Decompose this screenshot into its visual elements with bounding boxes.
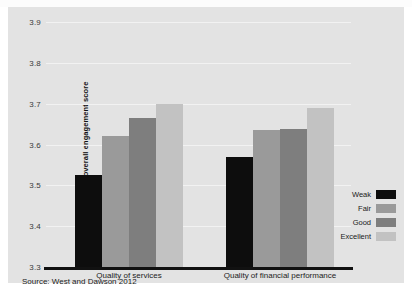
- x-axis-line: [44, 267, 353, 270]
- x-axis-category-label: Quality of financial performance: [224, 271, 337, 280]
- legend-label: Good: [353, 218, 371, 227]
- legend-item-good[interactable]: Good: [341, 218, 396, 227]
- y-axis-tick-label: 3.5: [29, 181, 41, 190]
- y-axis-tick-label: 3.3: [29, 263, 41, 272]
- y-axis-tick-label: 3.4: [29, 222, 41, 231]
- y-axis-tick-label: 3.6: [29, 140, 41, 149]
- bar-fair-0: [102, 136, 129, 267]
- legend-swatch-icon: [376, 218, 396, 227]
- legend-label: Fair: [358, 204, 371, 213]
- bar-weak-1: [226, 157, 253, 267]
- y-axis-tick-label: 3.9: [29, 18, 41, 27]
- chart-panel: Average overall engagement score 3.33.43…: [8, 7, 404, 283]
- bar-good-1: [280, 129, 307, 267]
- cropped-title-sliver: [0, 0, 412, 7]
- bar-fair-1: [253, 130, 280, 267]
- gridline: [46, 63, 351, 64]
- legend-item-fair[interactable]: Fair: [341, 204, 396, 213]
- legend-swatch-icon: [376, 190, 396, 199]
- y-axis-tick-label: 3.7: [29, 99, 41, 108]
- plot-area: 3.33.43.53.63.73.83.9 Quality of service…: [46, 22, 351, 267]
- y-axis-tick-label: 3.8: [29, 58, 41, 67]
- bar-weak-0: [75, 175, 102, 267]
- chart-figure: Average overall engagement score 3.33.43…: [0, 0, 412, 297]
- chart-legend: WeakFairGoodExcellent: [341, 190, 396, 241]
- gridline: [46, 104, 351, 105]
- bar-excellent-1: [307, 108, 334, 267]
- gridline: [46, 22, 351, 23]
- legend-item-weak[interactable]: Weak: [341, 190, 396, 199]
- legend-swatch-icon: [376, 232, 396, 241]
- legend-label: Excellent: [341, 232, 371, 241]
- legend-item-excellent[interactable]: Excellent: [341, 232, 396, 241]
- legend-label: Weak: [352, 190, 371, 199]
- legend-swatch-icon: [376, 204, 396, 213]
- bar-good-0: [129, 118, 156, 267]
- source-note: Source: West and Dawson 2012: [22, 277, 137, 286]
- bar-excellent-0: [156, 104, 183, 267]
